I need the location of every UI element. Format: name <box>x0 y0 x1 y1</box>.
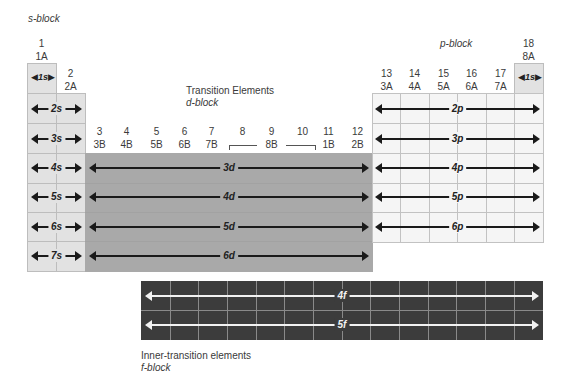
orbital-1s-h-label: ◀1s▶ <box>31 72 55 82</box>
group-16-label: 6A <box>457 81 486 92</box>
orbital-3p-label: 3p <box>449 132 467 145</box>
group-8-number: 8 <box>228 126 257 137</box>
arrow-right-icon <box>362 222 369 232</box>
arrow-left-icon <box>31 134 38 144</box>
group-12-label: 2B <box>343 139 372 150</box>
orbital-3s-arrow: 3s <box>31 133 82 145</box>
group-7-number: 7 <box>197 126 226 137</box>
orbital-4s-arrow: 4s <box>31 162 82 174</box>
arrow-left-icon <box>31 222 38 232</box>
orbital-2p-label: 2p <box>449 102 467 115</box>
orbital-4p-label: 4p <box>449 161 467 174</box>
orbital-2s-arrow: 2s <box>31 103 82 115</box>
orbital-4p-arrow: 4p <box>375 162 540 174</box>
group-5-number: 5 <box>142 126 171 137</box>
group-15-number: 15 <box>429 68 458 79</box>
orbital-5s-label: 5s <box>48 190 65 203</box>
group-18-label: 8A <box>514 51 543 62</box>
orbital-3d-arrow: 3d <box>89 162 369 174</box>
group-3-number: 3 <box>85 126 114 137</box>
group-17-label: 7A <box>486 81 515 92</box>
arrow-right-icon <box>533 134 540 144</box>
orbital-5d-label: 5d <box>220 220 238 233</box>
arrow-left-icon <box>145 291 152 301</box>
orbital-5f-label: 5f <box>335 318 350 331</box>
p-block-gridline <box>372 183 544 184</box>
transition-elements-title: Transition Elements <box>186 85 274 97</box>
p-block-label: p-block <box>440 38 472 50</box>
group-4-number: 4 <box>112 126 141 137</box>
orbital-1s-he-label: ◀1s▶ <box>518 72 542 82</box>
arrow-right-icon <box>533 104 540 114</box>
group-6-number: 6 <box>170 126 199 137</box>
orbital-3p-arrow: 3p <box>375 133 540 145</box>
group-5-label: 5B <box>142 139 171 150</box>
arrow-right-icon <box>532 320 539 330</box>
group-18-number: 18 <box>514 38 543 49</box>
inner-transition-title: Inner-transition elements <box>141 350 251 362</box>
orbital-4s-label: 4s <box>48 161 65 174</box>
arrow-left-icon <box>89 251 96 261</box>
group-2-label: 2A <box>56 81 85 92</box>
orbital-3d-label: 3d <box>220 161 238 174</box>
arrow-right-icon <box>75 134 82 144</box>
orbital-2p-arrow: 2p <box>375 103 540 115</box>
orbital-6p-arrow: 6p <box>375 221 540 233</box>
orbital-7s-arrow: 7s <box>31 250 82 262</box>
orbital-6d-arrow: 6d <box>89 250 369 262</box>
arrow-right-icon <box>532 291 539 301</box>
group-3-label: 3B <box>85 139 114 150</box>
f-block-label: f-block <box>141 362 170 374</box>
orbital-5d-arrow: 5d <box>89 221 369 233</box>
group-16-number: 16 <box>457 68 486 79</box>
orbital-4f-arrow: 4f <box>145 290 539 302</box>
orbital-4f-label: 4f <box>335 289 350 302</box>
group-14-number: 14 <box>400 68 429 79</box>
p-block-gridline <box>372 212 544 213</box>
orbital-6d-label: 6d <box>220 249 238 262</box>
orbital-6s-label: 6s <box>48 220 65 233</box>
arrow-right-icon <box>362 251 369 261</box>
arrow-left-icon <box>375 222 382 232</box>
arrow-right-icon <box>75 104 82 114</box>
orbital-6p-label: 6p <box>449 220 467 233</box>
orbital-5p-arrow: 5p <box>375 191 540 203</box>
orbital-4d-label: 4d <box>220 190 238 203</box>
d-block-label: d-block <box>186 97 218 109</box>
arrow-left-icon <box>31 192 38 202</box>
arrow-right-icon <box>533 163 540 173</box>
group-1-label: 1A <box>27 51 56 62</box>
d-block-gridline <box>85 183 373 184</box>
group-8b-label: 8B <box>257 139 286 150</box>
orbital-5f-arrow: 5f <box>145 319 539 331</box>
group-7-label: 7B <box>197 139 226 150</box>
arrow-left-icon <box>31 104 38 114</box>
d-block-gridline <box>85 212 373 213</box>
arrow-right-icon <box>75 251 82 261</box>
group-1-number: 1 <box>27 38 56 49</box>
arrow-right-icon <box>75 192 82 202</box>
arrow-right-icon <box>533 222 540 232</box>
arrow-left-icon <box>89 222 96 232</box>
arrow-left-icon <box>31 163 38 173</box>
arrow-left-icon <box>89 163 96 173</box>
group-15-label: 5A <box>429 81 458 92</box>
p-block-gridline <box>372 153 544 154</box>
orbital-6s-arrow: 6s <box>31 221 82 233</box>
arrow-left-icon <box>375 134 382 144</box>
group-6-label: 6B <box>170 139 199 150</box>
arrow-right-icon <box>362 192 369 202</box>
orbital-5s-arrow: 5s <box>31 191 82 203</box>
group-4-label: 4B <box>112 139 141 150</box>
arrow-left-icon <box>375 192 382 202</box>
orbital-1s-h-text: 1s <box>38 72 48 82</box>
group-13-label: 3A <box>372 81 401 92</box>
arrow-left-icon <box>89 192 96 202</box>
group-2-number: 2 <box>56 68 85 79</box>
s-block-label: s-block <box>28 13 60 25</box>
arrow-left-icon <box>31 251 38 261</box>
arrow-left-icon <box>145 320 152 330</box>
group-10-number: 10 <box>288 126 317 137</box>
arrow-right-icon <box>75 222 82 232</box>
group-9-number: 9 <box>257 126 286 137</box>
